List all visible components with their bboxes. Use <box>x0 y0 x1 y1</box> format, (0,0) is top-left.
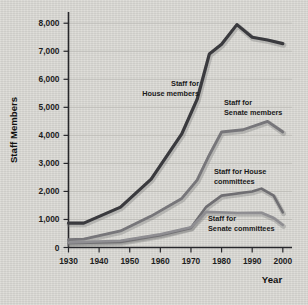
series-label-line-1: Staff for <box>171 79 199 88</box>
series-label-senate-members: Staff for Senate members <box>224 98 282 117</box>
y-tick-label: 0 <box>55 243 60 253</box>
x-tick-label: 1990 <box>243 256 262 266</box>
series-label-line-1: Staff for <box>224 98 252 107</box>
series-label-line-2: Senate members <box>224 108 282 117</box>
y-tick-label: 4,000 <box>39 130 60 140</box>
y-tick-label: 1,000 <box>39 214 60 224</box>
x-axis-title: Year <box>262 274 283 285</box>
series-lines <box>69 25 284 245</box>
x-tick-label: 1940 <box>90 256 109 266</box>
x-axis-ticks: 19301940195019601970198019902000 <box>59 248 292 266</box>
series-label-line-1: Staff for <box>208 214 236 223</box>
series-label-line-2: Senate committees <box>208 224 275 233</box>
x-tick-label: 1960 <box>151 256 170 266</box>
line-chart: 01,0002,0003,0004,0005,0006,0007,0008,00… <box>0 0 308 305</box>
x-tick-label: 1930 <box>59 256 78 266</box>
x-tick-label: 1980 <box>212 256 231 266</box>
series-label-line-2: House members <box>142 89 199 98</box>
y-tick-label: 5,000 <box>39 102 60 112</box>
series-label-house-members: Staff for House members <box>142 79 199 98</box>
y-axis-title: Staff Members <box>8 97 19 163</box>
y-tick-label: 3,000 <box>39 158 60 168</box>
y-tick-label: 6,000 <box>39 74 60 84</box>
y-tick-label: 7,000 <box>39 46 60 56</box>
series-label-house-committees: Staff for House committees <box>214 167 266 186</box>
x-tick-label: 1950 <box>120 256 139 266</box>
series-label-line-2: committees <box>214 177 255 186</box>
y-tick-label: 8,000 <box>39 18 60 28</box>
x-tick-label: 1970 <box>182 256 201 266</box>
y-tick-label: 2,000 <box>39 186 60 196</box>
y-axis-ticks: 01,0002,0003,0004,0005,0006,0007,0008,00… <box>39 18 69 252</box>
chart-container: 01,0002,0003,0004,0005,0006,0007,0008,00… <box>0 0 308 305</box>
series-label-line-1: Staff for House <box>214 167 266 176</box>
x-tick-label: 2000 <box>273 256 292 266</box>
